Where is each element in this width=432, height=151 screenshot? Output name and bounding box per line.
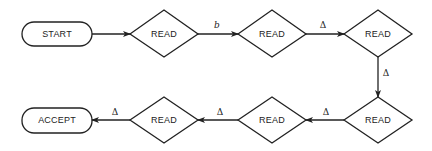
accept-label: ACCEPT [38,115,76,125]
edge-label-blank-3: Δ [323,107,330,117]
read-label-3: READ [365,29,391,39]
read-label-1: READ [151,29,177,39]
edge-label-blank-2: Δ [383,68,390,78]
edge-label-blank-4: Δ [217,107,224,117]
read-label-5: READ [259,115,285,125]
edge-label-blank-1: Δ [320,20,327,30]
read-label-4: READ [365,115,391,125]
read-label-2: READ [259,29,285,39]
read-label-6: READ [151,115,177,125]
edge-label-blank-5: Δ [112,107,119,117]
edge-label-b: b [214,20,220,30]
start-label: START [42,29,72,39]
